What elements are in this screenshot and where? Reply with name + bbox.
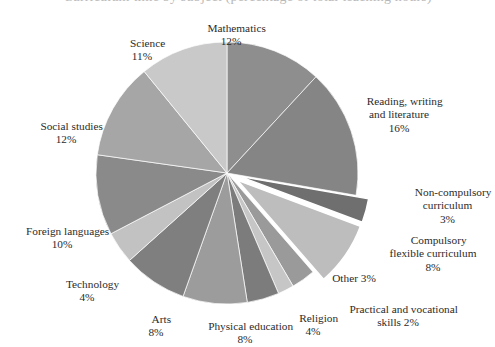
label-technology-pct: 4%	[42, 291, 132, 304]
label-mathematics: Mathematics12%	[181, 9, 281, 75]
label-compulsory-flex-pct: 8%	[371, 261, 495, 274]
label-non-compulsory-l1: Non-compulsory	[415, 186, 492, 198]
label-science: Science11%	[104, 24, 180, 90]
label-reading-writing-literature: Reading, writingand literature16%	[337, 82, 461, 161]
label-foreign-languages-name: Foreign languages	[26, 225, 109, 237]
label-compulsory-flexible-curriculum: Compulsoryflexible curriculum8%	[371, 221, 495, 300]
label-arts-name: Arts	[152, 313, 171, 325]
label-science-pct: 11%	[104, 50, 180, 63]
label-technology: Technology4%	[42, 265, 132, 331]
label-practical-vocational-l1: Practical and vocational	[349, 303, 458, 315]
pie-chart-figure: Curriculum time by subject (percentage o…	[0, 0, 495, 347]
label-social-studies-pct: 12%	[14, 133, 118, 146]
label-foreign-languages-pct: 10%	[0, 238, 124, 251]
label-technology-name: Technology	[66, 278, 119, 290]
label-social-studies: Social studies12%	[14, 107, 118, 173]
label-practical-vocational-l2: skills 2%	[318, 316, 478, 329]
label-other-name: Other 3%	[332, 272, 376, 284]
label-arts: Arts8%	[128, 300, 184, 347]
label-compulsory-flex-l2: flexible curriculum	[371, 247, 495, 260]
label-arts-pct: 8%	[128, 326, 184, 339]
label-social-studies-name: Social studies	[40, 120, 102, 132]
label-physical-education-name: Physical education	[208, 320, 293, 332]
label-mathematics-name: Mathematics	[207, 22, 265, 34]
label-compulsory-flex-l1: Compulsory	[411, 234, 467, 246]
label-reading-l2: and literature	[337, 108, 461, 121]
label-mathematics-pct: 12%	[181, 35, 281, 48]
label-science-name: Science	[130, 37, 165, 49]
label-non-compulsory-l2: curriculum	[400, 199, 495, 212]
label-reading-l1: Reading, writing	[367, 95, 443, 107]
label-reading-pct: 16%	[337, 122, 461, 135]
